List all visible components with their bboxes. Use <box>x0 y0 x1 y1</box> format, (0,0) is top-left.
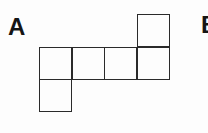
net-square <box>137 47 170 80</box>
net-square <box>39 47 72 80</box>
option-label-b: B <box>201 13 208 37</box>
net-square <box>39 79 72 112</box>
option-label-a: A <box>8 15 25 39</box>
net-square <box>104 47 137 80</box>
net-square <box>137 14 170 47</box>
net-square <box>72 47 105 80</box>
